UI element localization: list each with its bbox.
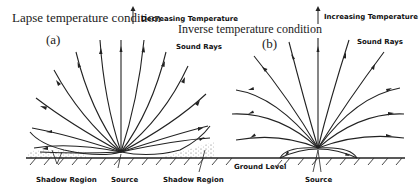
panel-b-sound-rays-label: Sound Rays <box>357 38 403 46</box>
shadow-region-left-fill <box>26 150 86 158</box>
shadow-region-left-label: Shadow Region <box>36 176 97 184</box>
panel-b-condition-title: Inverse temperature condition <box>178 22 322 36</box>
sound-rays-b <box>232 38 404 158</box>
shadow-region-right-fill <box>160 142 214 158</box>
panel-a-label: (a) <box>46 32 60 47</box>
shadow-region-right-label: Shadow Region <box>163 176 224 184</box>
ground-level-label: Ground Level <box>234 163 286 171</box>
panel-a-condition-title: Lapse temperature condition <box>12 10 161 25</box>
sound-rays-a <box>30 40 210 155</box>
panel-b: Increasing Temperature Inverse temperatu… <box>178 6 418 184</box>
panel-b-temperature-trend: Increasing Temperature <box>324 13 418 21</box>
source-label-b: Source <box>305 176 332 184</box>
source-label-a: Source <box>111 176 138 184</box>
panel-a-sound-rays-label: Sound Rays <box>176 43 222 51</box>
panel-b-label: (b) <box>262 36 277 51</box>
sound-propagation-diagram: Lapse temperature condition Decreasing T… <box>0 0 419 193</box>
